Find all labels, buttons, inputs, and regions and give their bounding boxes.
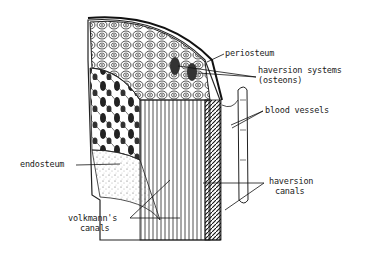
label-haversion-canals-line2: canals [275,187,305,196]
label-volkmanns-canals-line2: canals [80,224,110,233]
label-osteons: (osteons) [258,76,302,85]
label-haversion-canals-line1: haversion [269,177,313,186]
label-blood-vessels: blood vessels [265,106,329,115]
label-haversion-systems: haversion systems [258,66,342,75]
label-endosteum: endosteum [20,160,64,169]
label-volkmanns-canals-line1: volkmann's [68,214,117,223]
bone-diagram: periosteum haversion systems (osteons) b… [0,0,377,254]
label-periosteum: periosteum [225,49,274,58]
bone-illustration [0,0,377,254]
